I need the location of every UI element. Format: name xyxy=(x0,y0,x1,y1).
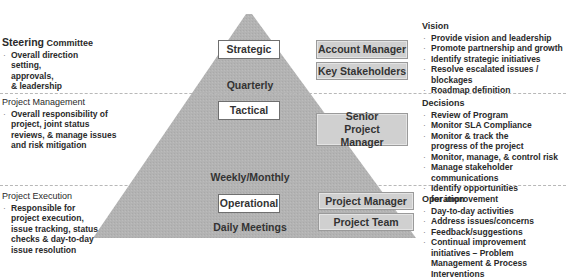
panel-bullet: Overall direction setting, xyxy=(2,50,102,71)
panel-heading: Vision xyxy=(422,21,566,32)
level-tactical: Tactical xyxy=(218,101,280,120)
panel-bullet: Overall responsibility of project, joint… xyxy=(2,109,122,151)
panel-bullet: Review of Program xyxy=(422,110,562,121)
right-panel-decisions: Decisions Review of Program Monitor SLA … xyxy=(422,98,562,204)
panel-heading: Decisions xyxy=(422,98,562,109)
panel-bullet-continuation: approvals, xyxy=(2,71,102,82)
role-senior-project-manager: Senior Project Manager xyxy=(316,113,408,146)
role-label: Senior Project Manager xyxy=(331,110,393,149)
panel-bullet: Feedback/suggestions xyxy=(422,227,562,238)
panel-heading: Project Execution xyxy=(2,191,102,202)
right-panel-operation: Operation Day-to-day activities Address … xyxy=(422,194,562,279)
panel-bullet: Monitor, manage, & control risk xyxy=(422,152,562,163)
panel-bullet: Monitor SLA Compliance xyxy=(422,120,562,131)
panel-heading: Operation xyxy=(422,194,562,205)
level-label: Operational xyxy=(220,197,278,210)
right-panel-vision: Vision Provide vision and leadership Pro… xyxy=(422,21,566,96)
level-label: Tactical xyxy=(230,104,268,117)
panel-bullet: Monitor & track the progress of the proj… xyxy=(422,131,562,152)
panel-bullet: Responsible for project execution, issue… xyxy=(2,203,102,245)
frequency-weekly-monthly: Weekly/Monthly xyxy=(200,171,300,183)
panel-bullet: Day-to-day activities xyxy=(422,206,562,217)
panel-bullet: Roadmap definition xyxy=(422,85,566,96)
level-operational: Operational xyxy=(218,194,280,213)
role-key-stakeholders: Key Stakeholders xyxy=(316,62,408,80)
role-account-manager: Account Manager xyxy=(316,40,408,59)
panel-heading: Steering Committee xyxy=(2,37,102,49)
frequency-daily-meetings: Daily Meetings xyxy=(200,221,300,233)
role-label: Key Stakeholders xyxy=(318,65,406,78)
panel-bullet: Manage stakeholder communications xyxy=(422,162,562,183)
role-label: Account Manager xyxy=(318,43,406,56)
role-project-manager: Project Manager xyxy=(318,192,414,210)
panel-bullet: Provide vision and leadership xyxy=(422,33,566,44)
panel-bullet: Identify strategic initiatives xyxy=(422,54,566,65)
role-project-team: Project Team xyxy=(318,213,414,231)
left-panel-steering: Steering Committee Overall direction set… xyxy=(2,37,102,92)
left-panel-project-management: Project Management Overall responsibilit… xyxy=(2,97,122,151)
panel-bullet: Resolve escalated issues / blockages xyxy=(422,64,566,85)
panel-bullet: Continual improvement initiatives – Prob… xyxy=(422,237,562,279)
panel-heading: Project Management xyxy=(2,97,122,108)
panel-bullet-continuation: issue resolution xyxy=(2,245,102,256)
left-panel-project-execution: Project Execution Responsible for projec… xyxy=(2,191,102,255)
frequency-quarterly: Quarterly xyxy=(210,79,290,91)
role-label: Project Team xyxy=(333,216,398,229)
panel-bullet: Address issues/concerns xyxy=(422,216,562,227)
role-label: Project Manager xyxy=(325,195,407,208)
panel-bullet-continuation: & leadership xyxy=(2,81,102,92)
level-label: Strategic xyxy=(227,43,272,56)
panel-bullet: Promote partnership and growth xyxy=(422,43,566,54)
level-strategic: Strategic xyxy=(218,40,280,59)
